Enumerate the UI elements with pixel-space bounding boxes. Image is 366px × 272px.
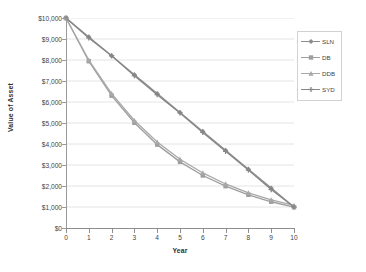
x-tick-mark bbox=[248, 229, 249, 233]
y-tick-label: $6,000 bbox=[6, 99, 62, 106]
y-tick-mark bbox=[62, 18, 66, 19]
y-tick-mark bbox=[62, 207, 66, 208]
y-tick-label: $5,000 bbox=[6, 120, 62, 127]
depreciation-chart: $0$1,000$2,000$3,000$4,000$5,000$6,000$7… bbox=[0, 0, 366, 272]
y-tick-label: $4,000 bbox=[6, 141, 62, 148]
x-tick-label: 0 bbox=[55, 234, 77, 242]
chart-legend: SLNDBDDBSYD bbox=[297, 31, 342, 101]
x-tick-label: 3 bbox=[123, 234, 145, 242]
legend-marker-square-icon bbox=[305, 53, 317, 62]
x-tick-label: 5 bbox=[169, 234, 191, 242]
y-tick-mark bbox=[62, 165, 66, 166]
x-axis-title: Year bbox=[66, 247, 294, 254]
x-tick-label: 9 bbox=[260, 234, 282, 242]
x-tick-label: 1 bbox=[78, 234, 100, 242]
y-tick-label: $7,000 bbox=[6, 78, 62, 85]
y-axis-line bbox=[66, 18, 67, 229]
legend-label: DDB bbox=[322, 69, 335, 78]
x-tick-mark bbox=[112, 229, 113, 233]
y-tick-label: $9,000 bbox=[6, 36, 62, 43]
legend-marker-triangle-icon bbox=[305, 69, 317, 78]
y-tick-mark bbox=[62, 60, 66, 61]
y-tick-mark bbox=[62, 186, 66, 187]
x-tick-label: 10 bbox=[283, 234, 305, 242]
plot-area bbox=[66, 18, 294, 228]
y-axis-title: Value of Asset bbox=[7, 60, 14, 156]
x-tick-label: 8 bbox=[237, 234, 259, 242]
y-tick-label: $0 bbox=[6, 225, 62, 232]
y-tick-mark bbox=[62, 123, 66, 124]
legend-item-syd[interactable]: SYD bbox=[301, 85, 341, 94]
x-tick-label: 7 bbox=[215, 234, 237, 242]
x-tick-mark bbox=[271, 229, 272, 233]
series-marker-ddb bbox=[200, 170, 205, 175]
x-tick-mark bbox=[134, 229, 135, 233]
legend-item-db[interactable]: DB bbox=[301, 53, 341, 62]
legend-label: SLN bbox=[322, 37, 334, 46]
legend-item-ddb[interactable]: DDB bbox=[301, 69, 341, 78]
x-tick-label: 6 bbox=[192, 234, 214, 242]
y-tick-mark bbox=[62, 144, 66, 145]
x-tick-label: 4 bbox=[146, 234, 168, 242]
legend-marker-diamond-icon bbox=[305, 37, 317, 46]
x-tick-mark bbox=[66, 229, 67, 233]
y-tick-label: $10,000 bbox=[6, 15, 62, 22]
legend-label: DB bbox=[322, 53, 331, 62]
x-tick-mark bbox=[157, 229, 158, 233]
y-tick-label: $2,000 bbox=[6, 183, 62, 190]
x-tick-mark bbox=[294, 229, 295, 233]
y-tick-mark bbox=[62, 102, 66, 103]
x-tick-mark bbox=[89, 229, 90, 233]
x-tick-mark bbox=[226, 229, 227, 233]
y-tick-label: $3,000 bbox=[6, 162, 62, 169]
legend-item-sln[interactable]: SLN bbox=[301, 37, 341, 46]
y-tick-mark bbox=[62, 81, 66, 82]
legend-marker-cross-icon bbox=[305, 85, 317, 94]
x-tick-label: 2 bbox=[101, 234, 123, 242]
x-tick-mark bbox=[203, 229, 204, 233]
x-tick-mark bbox=[180, 229, 181, 233]
series-layer bbox=[66, 18, 294, 228]
y-tick-label: $1,000 bbox=[6, 204, 62, 211]
legend-label: SYD bbox=[322, 85, 335, 94]
y-tick-label: $8,000 bbox=[6, 57, 62, 64]
y-tick-mark bbox=[62, 39, 66, 40]
